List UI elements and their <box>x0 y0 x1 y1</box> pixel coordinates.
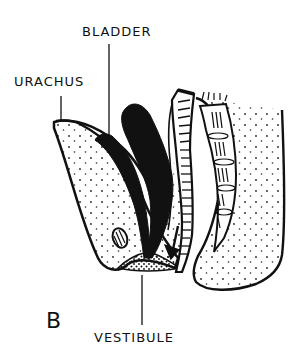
urachus-label: URACHUS <box>14 74 84 89</box>
panel-letter: B <box>46 308 61 333</box>
pelvic-section-drawing <box>0 0 303 360</box>
bladder-label: BLADDER <box>82 24 152 39</box>
vestibule-label: VESTIBULE <box>94 330 174 345</box>
